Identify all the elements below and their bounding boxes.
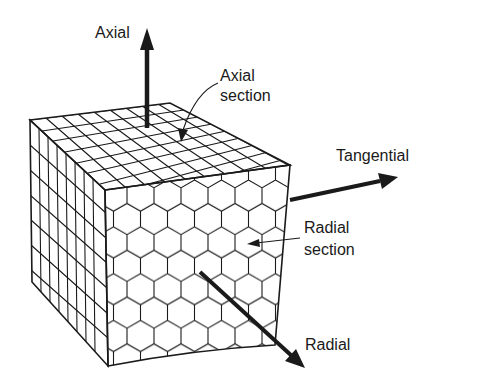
radial-label: Radial — [305, 335, 350, 354]
axial-section-leader — [178, 83, 218, 142]
axial-arrow — [140, 28, 154, 128]
tangential-arrow — [290, 173, 398, 200]
tangential-label: Tangential — [336, 146, 409, 165]
axial-section-label-line1: Axial — [220, 66, 255, 85]
axial-label: Axial — [95, 23, 130, 42]
cube-drawing — [0, 0, 493, 386]
radial-section-label-line1: Radial — [304, 218, 349, 237]
axial-section-label-line2: section — [220, 86, 271, 105]
tangential-face-outline — [30, 120, 108, 366]
radial-section-label-line2: section — [304, 240, 355, 259]
honeycomb-cube-diagram: Axial Axial section Tangential Radial se… — [0, 0, 493, 386]
